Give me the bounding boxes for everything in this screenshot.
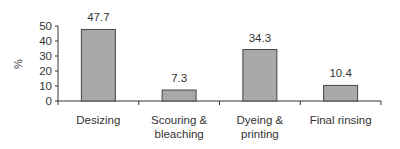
value-label: 34.3 [249,32,271,44]
bars: 47.7Desizing7.3Scouring &bleaching34.3Dy… [76,11,371,140]
y-tick-label: 50 [39,20,52,32]
bar-chart: 01020304050 47.7Desizing7.3Scouring &ble… [0,0,400,149]
category-label: Final rinsing [310,114,372,126]
y-tick-label: 0 [46,95,52,107]
value-label: 47.7 [87,11,109,23]
category-label: bleaching [155,128,204,140]
bar [324,85,358,101]
y-tick-label: 20 [39,65,52,77]
bar [81,29,115,101]
bar-group: 34.3Dyeing &printing [237,32,284,140]
bar-group: 10.4Final rinsing [310,67,372,126]
y-axis: 01020304050 [39,20,58,107]
bar-group: 7.3Scouring &bleaching [151,72,208,140]
value-label: 10.4 [329,67,352,79]
x-axis [58,101,381,105]
value-label: 7.3 [171,72,187,84]
bar [243,50,277,101]
bar-group: 47.7Desizing [76,11,120,126]
category-label: Dyeing & [237,114,284,126]
y-axis-label: % [12,59,24,69]
bar [162,90,196,101]
y-tick-label: 10 [39,80,52,92]
y-tick-label: 40 [39,35,52,47]
category-label: Scouring & [151,114,208,126]
y-tick-label: 30 [39,50,52,62]
category-label: printing [241,128,279,140]
category-label: Desizing [76,114,120,126]
